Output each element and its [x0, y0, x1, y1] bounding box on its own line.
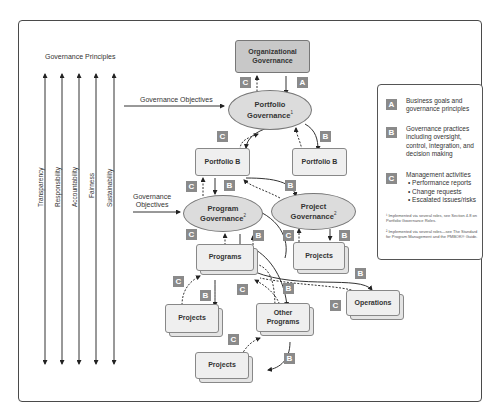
- badge-c: C: [283, 230, 294, 241]
- principle-transparency: Transparency: [37, 168, 44, 208]
- footnote-ref: 2: [334, 211, 337, 216]
- node-line2-text: Governance: [200, 214, 243, 223]
- project-governance-node: Project Governance2: [271, 193, 356, 230]
- badge-c: C: [186, 181, 197, 192]
- legend-c-bullets: Performance reports Change requests Esca…: [406, 179, 482, 204]
- other-programs-node: OtherPrograms: [256, 303, 310, 332]
- operations-node: Operations: [346, 290, 400, 316]
- projects-bottom-node: Projects: [195, 352, 249, 379]
- principle-fairness: Fairness: [88, 173, 95, 198]
- legend-text-b: Governance practices including oversight…: [406, 125, 482, 159]
- badge-b: B: [200, 290, 211, 301]
- node-line2: Programs: [267, 318, 300, 326]
- objectives-line1: Governance: [133, 193, 171, 201]
- portfolio-governance-node: Portfolio Governance1: [228, 90, 312, 130]
- portfolio-b-right-node: Portfolio B: [292, 148, 347, 176]
- governance-principles-title: Governance Principles: [45, 53, 115, 61]
- objectives-line2: Objectives: [133, 201, 171, 209]
- legend-bullet: Change requests: [406, 188, 482, 196]
- badge-b: B: [283, 283, 294, 294]
- principle-sustainability: Sustainability: [106, 169, 113, 207]
- footnote-1: ¹ Implemented via several roles, see Sec…: [386, 213, 478, 224]
- node-line2: Governance2: [200, 213, 246, 223]
- footnote-ref: 2: [243, 213, 246, 218]
- node-line1: Project: [301, 202, 326, 211]
- node-line1: Organizational: [248, 48, 297, 56]
- projects-left-node: Projects: [165, 304, 219, 333]
- legend-badge-c: C: [386, 173, 397, 184]
- footnote-2: ² Implemented via several roles—see The …: [386, 229, 478, 240]
- badge-b: B: [285, 180, 296, 191]
- badge-c: C: [330, 300, 341, 311]
- program-governance-node: Program Governance2: [183, 195, 263, 232]
- node-line1: Program: [208, 204, 239, 213]
- node-line2-text: Governance: [291, 212, 334, 221]
- other-programs-label: OtherPrograms: [256, 303, 310, 332]
- legend-bullet: Performance reports: [406, 179, 482, 187]
- projects-label: Projects: [195, 352, 249, 379]
- badge-b: B: [339, 230, 350, 241]
- badge-b: B: [224, 180, 235, 191]
- node-line1: Other: [267, 309, 300, 317]
- legend: A Business goals and governance principl…: [377, 84, 483, 260]
- principle-responsibility: Responsibility: [54, 167, 61, 207]
- badge-c: C: [240, 77, 251, 88]
- badge-c: C: [186, 229, 197, 240]
- portfolio-b-left-node: Portfolio B: [195, 148, 250, 176]
- node-line2: Governance2: [291, 211, 337, 221]
- badge-c: C: [237, 284, 248, 295]
- legend-bullet: Escalated issues/risks: [406, 196, 482, 204]
- node-line2: Governance: [248, 57, 297, 65]
- programs-node: Programs: [196, 244, 254, 271]
- programs-label: Programs: [196, 244, 254, 271]
- legend-text-c: Management activities Performance report…: [406, 171, 482, 205]
- badge-c: C: [228, 334, 239, 345]
- node-line2-text: Governance: [247, 110, 290, 119]
- governance-objectives-program-label: Governance Objectives: [133, 193, 171, 209]
- badge-a: A: [297, 77, 308, 88]
- governance-objectives-portfolio-label: Governance Objectives: [140, 96, 213, 104]
- badge-b: B: [355, 268, 366, 279]
- legend-badge-a: A: [386, 99, 397, 110]
- badge-c: C: [173, 276, 184, 287]
- badge-b: B: [253, 230, 264, 241]
- operations-label: Operations: [346, 290, 400, 316]
- projects-right-node: Projects: [293, 242, 345, 270]
- badge-b: B: [320, 131, 331, 142]
- legend-text-a: Business goals and governance principles: [406, 97, 482, 114]
- legend-c-title: Management activities: [406, 171, 482, 179]
- badge-b: B: [284, 353, 295, 364]
- organizational-governance-node: OrganizationalGovernance: [235, 40, 310, 73]
- node-line2: Governance1: [247, 110, 293, 120]
- legend-badge-b: B: [386, 127, 397, 138]
- node-line1: Portfolio: [255, 100, 286, 109]
- badge-c: C: [217, 131, 228, 142]
- projects-label: Projects: [165, 304, 219, 333]
- principle-accountability: Accountability: [71, 167, 78, 207]
- projects-label: Projects: [293, 242, 345, 270]
- footnote-ref: 1: [290, 110, 293, 115]
